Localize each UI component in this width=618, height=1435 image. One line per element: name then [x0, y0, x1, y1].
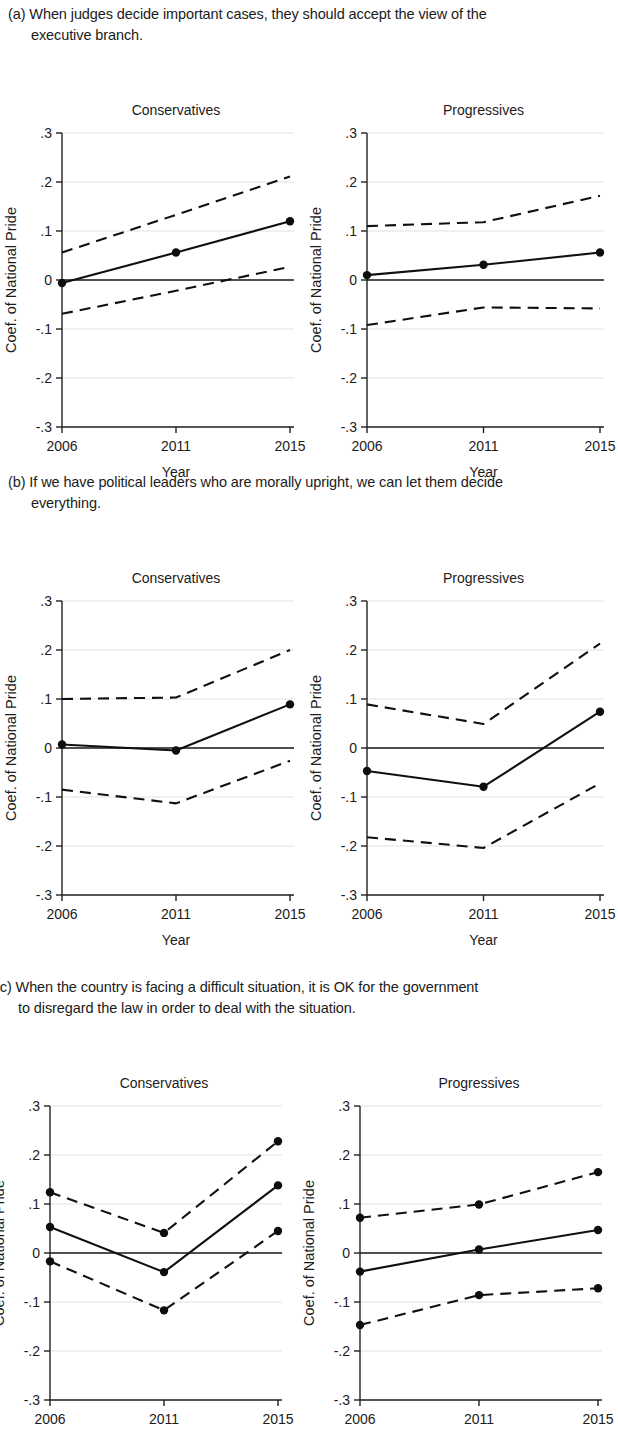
- y-tick-label: -.2: [341, 838, 358, 854]
- data-point-marker: [46, 1257, 54, 1265]
- y-tick-label: -.3: [24, 1392, 41, 1408]
- x-tick-label: 2011: [468, 438, 498, 454]
- data-point-marker: [286, 217, 294, 225]
- y-tick-label: .2: [345, 174, 357, 190]
- y-tick-label: -.3: [36, 887, 53, 903]
- confidence-interval-line: [367, 783, 600, 848]
- y-tick-label: .2: [28, 1147, 40, 1163]
- panel-a: (a) When judges decide important cases, …: [0, 4, 618, 436]
- chart-a-conservatives: Conservatives-.3-.2-.10.1.2.320062011201…: [0, 46, 310, 436]
- x-tick-label: 2006: [351, 438, 382, 454]
- panel-b-caption-line1: If we have political leaders who are mor…: [29, 474, 503, 490]
- data-point-marker: [160, 1306, 168, 1314]
- confidence-interval-line: [360, 1172, 598, 1218]
- x-tick-label: 2006: [34, 1411, 65, 1427]
- coefficient-line: [62, 704, 290, 750]
- y-tick-label: -.3: [334, 1392, 351, 1408]
- chart-c-conservatives: Conservatives-.3-.2-.10.1.2.320062011201…: [0, 1019, 298, 1409]
- data-point-marker: [58, 740, 66, 748]
- panel-a-label: (a): [8, 6, 25, 22]
- panel-c-caption-line2: to disregard the law in order to deal wi…: [0, 998, 618, 1019]
- y-tick-label: .3: [345, 593, 357, 609]
- chart-subtitle: Progressives: [439, 1075, 520, 1091]
- y-tick-label: .3: [338, 1098, 350, 1114]
- y-axis-label: Coef. of National Pride: [0, 1180, 7, 1326]
- chart-c-progressives-svg: Progressives-.3-.2-.10.1.2.3200620112015…: [298, 1019, 618, 1409]
- data-point-marker: [363, 767, 371, 775]
- panel-c: (c) When the country is facing a difficu…: [0, 977, 618, 1409]
- chart-a-progressives-svg: Progressives-.3-.2-.10.1.2.3200620112015…: [305, 46, 618, 436]
- y-tick-label: -.2: [24, 1343, 41, 1359]
- chart-a-progressives: Progressives-.3-.2-.10.1.2.3200620112015…: [305, 46, 618, 436]
- y-tick-label: -.2: [341, 370, 358, 386]
- confidence-interval-line: [367, 644, 600, 724]
- y-tick-label: 0: [342, 1245, 350, 1261]
- y-tick-label: .2: [40, 174, 52, 190]
- y-tick-label: .3: [28, 1098, 40, 1114]
- data-point-marker: [479, 261, 487, 269]
- y-tick-label: .3: [40, 593, 52, 609]
- data-point-marker: [363, 271, 371, 279]
- y-tick-label: .3: [40, 125, 52, 141]
- y-tick-label: -.1: [36, 321, 53, 337]
- chart-c-progressives: Progressives-.3-.2-.10.1.2.3200620112015…: [298, 1019, 618, 1409]
- data-point-marker: [46, 1188, 54, 1196]
- data-point-marker: [160, 1268, 168, 1276]
- data-point-marker: [594, 1284, 602, 1292]
- y-tick-label: -.2: [36, 838, 53, 854]
- x-tick-label: 2015: [274, 438, 305, 454]
- data-point-marker: [594, 1168, 602, 1176]
- chart-c-conservatives-svg: Conservatives-.3-.2-.10.1.2.320062011201…: [0, 1019, 298, 1409]
- y-axis-label: Coef. of National Pride: [3, 207, 19, 353]
- data-point-marker: [274, 1181, 282, 1189]
- y-tick-label: .1: [40, 691, 52, 707]
- x-tick-label: 2011: [464, 1411, 494, 1427]
- y-tick-label: 0: [349, 740, 357, 756]
- data-point-marker: [596, 248, 604, 256]
- y-tick-label: -.1: [36, 789, 53, 805]
- panel-a-charts: Conservatives-.3-.2-.10.1.2.320062011201…: [0, 46, 618, 436]
- confidence-interval-line: [367, 307, 600, 325]
- y-tick-label: -.3: [341, 419, 358, 435]
- y-tick-label: .1: [40, 223, 52, 239]
- y-tick-label: .1: [345, 691, 357, 707]
- data-point-marker: [172, 746, 180, 754]
- y-tick-label: -.3: [36, 419, 53, 435]
- y-axis-label: Coef. of National Pride: [308, 207, 324, 353]
- x-tick-label: 2015: [274, 906, 305, 922]
- y-tick-label: -.2: [36, 370, 53, 386]
- y-tick-label: .2: [338, 1147, 350, 1163]
- y-tick-label: 0: [44, 740, 52, 756]
- x-tick-label: 2006: [46, 438, 77, 454]
- data-point-marker: [594, 1226, 602, 1234]
- y-tick-label: .1: [338, 1196, 350, 1212]
- y-tick-label: -.1: [341, 321, 358, 337]
- y-axis-label: Coef. of National Pride: [301, 1180, 317, 1326]
- y-tick-label: -.1: [341, 789, 358, 805]
- panel-b-caption-line2: everything.: [8, 493, 612, 514]
- y-tick-label: .3: [345, 125, 357, 141]
- chart-b-progressives: Progressives-.3-.2-.10.1.2.3200620112015…: [305, 514, 618, 904]
- panel-c-caption-line1: When the country is facing a difficult s…: [16, 979, 479, 995]
- data-point-marker: [356, 1321, 364, 1329]
- x-tick-label: 2015: [582, 1411, 613, 1427]
- data-point-marker: [58, 279, 66, 287]
- chart-b-conservatives-svg: Conservatives-.3-.2-.10.1.2.320062011201…: [0, 514, 310, 904]
- chart-b-progressives-svg: Progressives-.3-.2-.10.1.2.3200620112015…: [305, 514, 618, 904]
- chart-subtitle: Progressives: [443, 570, 524, 586]
- data-point-marker: [46, 1223, 54, 1231]
- y-axis-label: Coef. of National Pride: [308, 675, 324, 821]
- panel-c-label: (c): [0, 979, 12, 995]
- y-tick-label: 0: [349, 272, 357, 288]
- x-tick-label: 2006: [344, 1411, 375, 1427]
- y-tick-label: -.1: [334, 1294, 351, 1310]
- chart-subtitle: Conservatives: [120, 1075, 209, 1091]
- x-tick-label: 2015: [584, 438, 615, 454]
- y-tick-label: 0: [32, 1245, 40, 1261]
- data-point-marker: [286, 700, 294, 708]
- panel-b-label: (b): [8, 474, 25, 490]
- y-tick-label: 0: [44, 272, 52, 288]
- y-tick-label: .2: [345, 642, 357, 658]
- y-tick-label: -.3: [341, 887, 358, 903]
- chart-a-conservatives-svg: Conservatives-.3-.2-.10.1.2.320062011201…: [0, 46, 310, 436]
